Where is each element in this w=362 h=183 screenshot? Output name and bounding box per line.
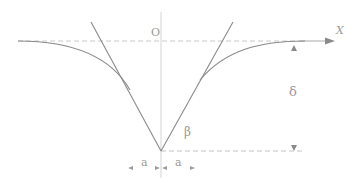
half-width-left-label: a: [141, 157, 148, 168]
half-width-right-label: a: [175, 157, 182, 168]
origin-label: O: [151, 27, 160, 38]
x-axis-arrow-icon: [325, 38, 335, 45]
width-arrow-right-outer-icon: [190, 166, 195, 170]
width-arrow-right-inner-icon: [162, 166, 167, 170]
width-arrow-left-outer-icon: [128, 166, 133, 170]
depth-arrow-down-icon: [291, 145, 297, 151]
left-profile-curve: [18, 41, 130, 90]
depth-arrow-up-icon: [291, 45, 297, 51]
angle-label: β: [184, 126, 191, 138]
width-arrow-left-inner-icon: [155, 166, 160, 170]
depth-label: δ: [289, 85, 297, 98]
right-profile-curve: [200, 41, 305, 80]
x-axis-label: X: [336, 25, 344, 36]
